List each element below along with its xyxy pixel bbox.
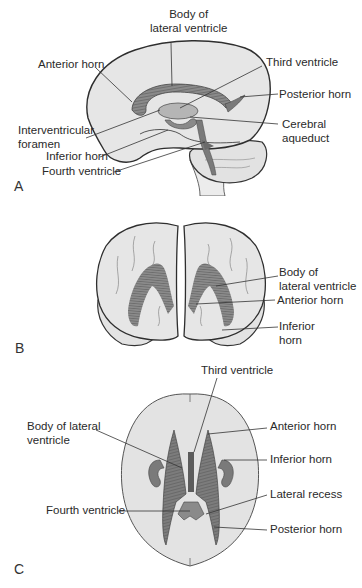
label-anterior-horn: Anterior horn bbox=[270, 420, 336, 434]
label-inferior-horn: Inferior horn bbox=[279, 320, 315, 347]
label-anterior-horn: Anterior horn bbox=[277, 294, 343, 308]
panel-c-superior-view: Third ventricle Body of lateral ventricl… bbox=[0, 362, 362, 588]
label-body-of-lateral-ventricle: Body of lateral ventricle bbox=[279, 266, 356, 293]
label-anterior-horn: Anterior horn bbox=[38, 58, 104, 72]
label-third-ventricle: Third ventricle bbox=[201, 364, 273, 378]
label-lateral-recess: Lateral recess bbox=[270, 488, 342, 502]
label-cerebral-aqueduct: Cerebral aqueduct bbox=[282, 118, 329, 145]
superior-brain-illustration bbox=[0, 362, 362, 588]
panel-letter-b: B bbox=[15, 340, 24, 356]
panel-letter-a: A bbox=[14, 178, 23, 194]
label-third-ventricle: Third ventricle bbox=[266, 56, 338, 70]
panel-b-anterior-view: Body of lateral ventricle Anterior horn … bbox=[0, 196, 362, 362]
panel-letter-c: C bbox=[14, 561, 24, 577]
panel-a-lateral-view: Body of lateral ventricle Anterior horn … bbox=[0, 0, 362, 196]
label-posterior-horn: Posterior horn bbox=[270, 523, 342, 537]
label-interventricular-foramen: Interventricular foramen bbox=[18, 124, 94, 151]
label-body-of-lateral-ventricle: Body of lateral ventricle bbox=[150, 8, 227, 35]
label-fourth-ventricle: Fourth ventricle bbox=[46, 504, 125, 518]
label-inferior-horn: Inferior horn bbox=[270, 453, 332, 467]
label-posterior-horn: Posterior horn bbox=[279, 88, 351, 102]
label-inferior-horn: Inferior horn bbox=[46, 150, 108, 164]
label-body-of-lateral-ventricle: Body of lateral ventricle bbox=[27, 420, 101, 447]
label-fourth-ventricle: Fourth ventricle bbox=[42, 165, 121, 179]
